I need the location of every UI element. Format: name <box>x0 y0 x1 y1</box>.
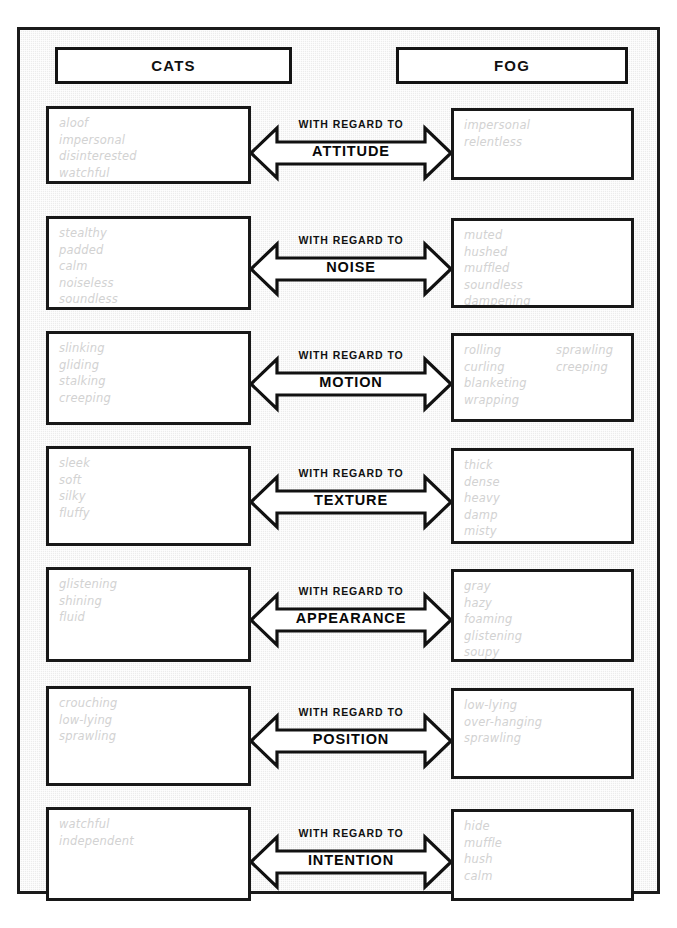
category-label: MOTION <box>251 374 451 390</box>
word-item: fluid <box>59 609 117 626</box>
word-item: soft <box>59 472 90 489</box>
cats-word-list: glisteningshiningfluid <box>59 576 117 626</box>
word-item: soupy <box>464 644 522 661</box>
word-item: fluffy <box>59 505 90 522</box>
word-item: dense <box>464 474 500 491</box>
category-label: TEXTURE <box>251 492 451 508</box>
category-label: NOISE <box>251 259 451 275</box>
word-item: impersonal <box>59 132 137 149</box>
double-arrow-connector: WITH REGARD TOATTITUDE <box>251 121 451 185</box>
word-item: dampening <box>464 293 531 308</box>
cats-attribute-box: crouchinglow-lyingsprawling <box>46 686 251 786</box>
word-item: gliding <box>59 357 111 374</box>
connector-prefix-label: WITH REGARD TO <box>251 706 451 718</box>
word-item: aloof <box>59 115 137 132</box>
word-item: watchful <box>59 816 134 833</box>
word-item: sprawling <box>464 730 542 747</box>
cats-attribute-box: stealthypaddedcalmnoiselesssoundless <box>46 216 251 310</box>
cats-word-list: sleeksoftsilkyfluffy <box>59 455 90 521</box>
cats-attribute-box: watchfulindependent <box>46 807 251 901</box>
word-item: thick <box>464 457 500 474</box>
word-item: heavy <box>464 490 500 507</box>
category-label: INTENTION <box>251 852 451 868</box>
fog-word-list: thickdenseheavydampmisty <box>464 457 500 540</box>
word-item: damp <box>464 507 500 524</box>
fog-attribute-box: rollingcurlingblanketingwrappingsprawlin… <box>451 333 634 422</box>
word-item: gray <box>464 578 522 595</box>
word-item: soundless <box>59 291 118 308</box>
connector-prefix-label: WITH REGARD TO <box>251 827 451 839</box>
word-item: impersonal <box>464 117 530 134</box>
word-item: stealthy <box>59 225 118 242</box>
word-item: creeping <box>556 359 613 376</box>
connector-prefix-label: WITH REGARD TO <box>251 585 451 597</box>
header-box-cats: CATS <box>55 47 292 84</box>
word-item: wrapping <box>464 392 527 409</box>
word-item: calm <box>464 868 502 885</box>
word-item: sprawling <box>556 342 613 359</box>
word-item: stalking <box>59 373 111 390</box>
double-arrow-connector: WITH REGARD TONOISE <box>251 237 451 301</box>
word-item: misty <box>464 523 500 540</box>
cats-word-list: slinkingglidingstalkingcreeping <box>59 340 111 406</box>
category-label: POSITION <box>251 731 451 747</box>
cats-attribute-box: aloofimpersonaldisinterestedwatchful <box>46 106 251 184</box>
fog-word-list: mutedhushedmuffledsoundlessdampening <box>464 227 531 308</box>
header-label-cats: CATS <box>151 57 196 74</box>
word-item: blanketing <box>464 375 527 392</box>
word-item: slinking <box>59 340 111 357</box>
word-item: hazy <box>464 595 522 612</box>
category-label: ATTITUDE <box>251 143 451 159</box>
cats-word-list: stealthypaddedcalmnoiselesssoundless <box>59 225 118 308</box>
word-item: watchful <box>59 165 137 182</box>
category-label: APPEARANCE <box>251 610 451 626</box>
word-item: independent <box>59 833 134 850</box>
double-arrow-connector: WITH REGARD TOMOTION <box>251 352 451 416</box>
cats-word-list: watchfulindependent <box>59 816 134 849</box>
word-item: relentless <box>464 134 530 151</box>
word-item: muffled <box>464 260 531 277</box>
word-item: curling <box>464 359 527 376</box>
fog-attribute-box: thickdenseheavydampmisty <box>451 448 634 544</box>
word-item: rolling <box>464 342 527 359</box>
cats-word-list: aloofimpersonaldisinterestedwatchful <box>59 115 137 181</box>
word-item: padded <box>59 242 118 259</box>
cats-attribute-box: slinkingglidingstalkingcreeping <box>46 331 251 425</box>
word-item: crouching <box>59 695 118 712</box>
cats-attribute-box: sleeksoftsilkyfluffy <box>46 446 251 546</box>
word-item: sleek <box>59 455 90 472</box>
word-item: disinterested <box>59 148 137 165</box>
word-item: sprawling <box>59 728 118 745</box>
fog-word-list: rollingcurlingblanketingwrapping <box>464 342 527 408</box>
fog-word-list: hidemufflehushcalm <box>464 818 502 884</box>
diagram-frame: CATS FOG aloofimpersonaldisinterestedwat… <box>17 27 660 894</box>
page-root: CATS FOG aloofimpersonaldisinterestedwat… <box>0 0 677 928</box>
word-item: hush <box>464 851 502 868</box>
cats-attribute-box: glisteningshiningfluid <box>46 567 251 662</box>
word-item: silky <box>59 488 90 505</box>
cats-word-list: crouchinglow-lyingsprawling <box>59 695 118 745</box>
word-item: muted <box>464 227 531 244</box>
header-label-fog: FOG <box>494 57 530 74</box>
fog-word-list-secondary: sprawlingcreeping <box>556 342 613 375</box>
word-item: shining <box>59 593 117 610</box>
fog-attribute-box: low-lyingover-hangingsprawling <box>451 688 634 779</box>
word-item: over-hanging <box>464 714 542 731</box>
connector-prefix-label: WITH REGARD TO <box>251 118 451 130</box>
double-arrow-connector: WITH REGARD TOINTENTION <box>251 830 451 894</box>
double-arrow-connector: WITH REGARD TOAPPEARANCE <box>251 588 451 652</box>
word-item: low-lying <box>464 697 542 714</box>
connector-prefix-label: WITH REGARD TO <box>251 349 451 361</box>
fog-attribute-box: mutedhushedmuffledsoundlessdampening <box>451 218 634 308</box>
word-item: foaming <box>464 611 522 628</box>
word-item: muffle <box>464 835 502 852</box>
double-arrow-connector: WITH REGARD TOTEXTURE <box>251 470 451 534</box>
word-item: soundless <box>464 277 531 294</box>
word-item: calm <box>59 258 118 275</box>
fog-word-list: impersonalrelentless <box>464 117 530 150</box>
word-item: noiseless <box>59 275 118 292</box>
word-item: low-lying <box>59 712 118 729</box>
word-item: hushed <box>464 244 531 261</box>
word-item: glistening <box>464 628 522 645</box>
word-item: glistening <box>59 576 117 593</box>
